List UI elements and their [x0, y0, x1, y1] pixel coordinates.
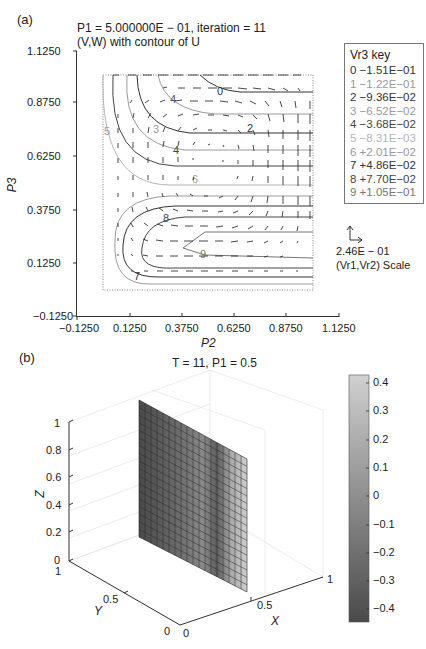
- colorbar-tick: −0.3: [373, 574, 395, 586]
- legend-row: 9 +1.05E−01: [345, 186, 423, 200]
- legend-row: 5 −8.31E−03: [345, 132, 423, 146]
- colorbar-tick: 0.4: [373, 376, 388, 388]
- ytick: 0.6250: [27, 150, 61, 162]
- svg-text:7: 7: [134, 270, 140, 282]
- svg-text:4: 4: [170, 93, 176, 105]
- svg-text:9: 9: [200, 248, 206, 260]
- scale-arrow-icon: [347, 226, 362, 243]
- xtick: −0.1250: [59, 322, 99, 334]
- colorbar-tick: −0.1: [373, 518, 395, 530]
- colorbar-tick: 0.2: [373, 433, 388, 445]
- panel-b-label: (b): [19, 350, 35, 365]
- ytick-3d: 1: [55, 565, 61, 577]
- svg-text:2: 2: [247, 122, 253, 134]
- xtick: 0.8750: [269, 322, 303, 334]
- legend-row: 8 +7.70E−02: [345, 173, 423, 187]
- legend-row: 7 +4.86E−02: [345, 159, 423, 173]
- colorbar: [349, 375, 369, 622]
- x-axis-label-3d: X: [271, 614, 279, 628]
- svg-text:3: 3: [153, 123, 159, 135]
- legend-row: 1 −1.22E−01: [345, 78, 423, 92]
- ytick: −0.1250: [33, 310, 73, 322]
- scale-label: (Vr1,Vr2) Scale: [336, 259, 410, 271]
- x-axis-label: P2: [201, 336, 216, 350]
- z-axis-label: Z: [33, 490, 47, 497]
- ytick: 0.3750: [27, 204, 61, 216]
- ztick: 0.2: [46, 526, 61, 538]
- xtick-3d: 1: [327, 573, 333, 585]
- slice-plane: [139, 400, 247, 592]
- panel-b-3d-plot: [0, 370, 426, 649]
- xtick: 0.1250: [113, 322, 147, 334]
- y-axis-label-3d: Y: [94, 604, 102, 618]
- vr3-key-legend: Vr3 key 0 −1.51E−01 1 −1.22E−01 2 −9.36E…: [344, 43, 424, 204]
- ytick: 1.1250: [27, 45, 61, 57]
- colorbar-tick: −0.4: [373, 602, 395, 614]
- legend-row: 2 −9.36E−02: [345, 91, 423, 105]
- svg-text:0: 0: [217, 85, 223, 97]
- ytick-3d: 0: [164, 625, 170, 637]
- colorbar-tick: −0.2: [373, 546, 395, 558]
- xtick: 1.1250: [322, 322, 356, 334]
- ztick: 0.8: [46, 444, 61, 456]
- ytick: 0.1250: [27, 257, 61, 269]
- colorbar-tick: 0.3: [373, 404, 388, 416]
- legend-row: 3 −6.52E−02: [345, 105, 423, 119]
- panel-b-title: T = 11, P1 = 0.5: [172, 356, 257, 370]
- ytick: 0.8750: [27, 96, 61, 108]
- svg-text:5: 5: [104, 125, 110, 137]
- legend-row: 4 −3.68E−02: [345, 118, 423, 132]
- colorbar-tick: 0.1: [373, 461, 388, 473]
- ztick: 0.4: [46, 499, 61, 511]
- xtick: 0.3750: [165, 322, 199, 334]
- colorbar-tick: 0: [373, 489, 379, 501]
- ztick: 1: [54, 417, 60, 429]
- xtick-3d: 0.5: [257, 599, 272, 611]
- ztick: 0.6: [46, 471, 61, 483]
- legend-row: 6 +2.01E−02: [345, 146, 423, 160]
- svg-text:8: 8: [163, 212, 169, 224]
- y-axis-label: P3: [5, 178, 19, 193]
- legend-title: Vr3 key: [345, 44, 423, 64]
- xtick-3d: 0: [183, 627, 189, 639]
- legend-row: 0 −1.51E−01: [345, 64, 423, 78]
- xtick: 0.6250: [217, 322, 251, 334]
- ytick-3d: 0.5: [103, 593, 118, 605]
- scale-value: 2.46E − 01: [336, 245, 390, 257]
